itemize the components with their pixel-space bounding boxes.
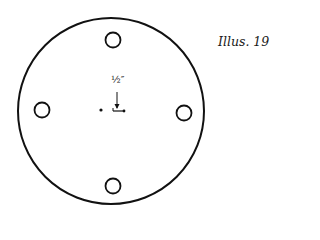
hole-top xyxy=(106,33,121,48)
half-inch-measurement-mark xyxy=(113,92,125,112)
dimension-label: ½″ xyxy=(111,74,124,85)
center-dot xyxy=(99,108,102,111)
hole-right xyxy=(177,106,192,121)
hole-left xyxy=(35,103,50,118)
illustration-caption: Illus. 19 xyxy=(218,34,269,49)
hole-bottom xyxy=(106,179,121,194)
